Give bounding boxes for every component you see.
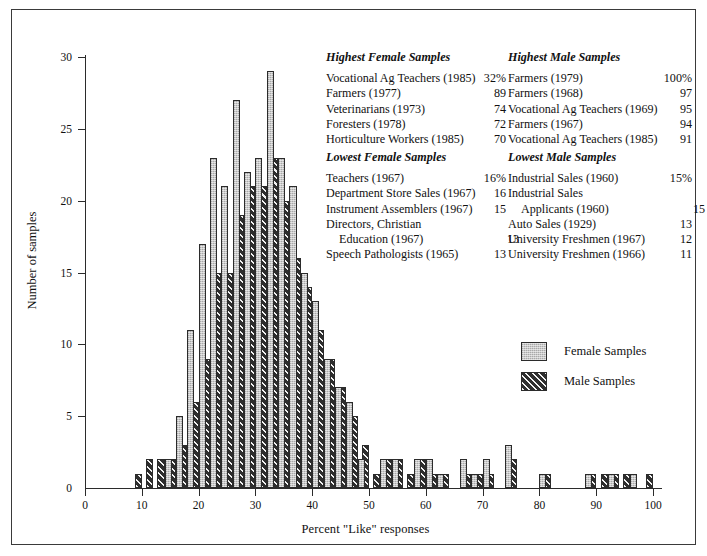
y-tick-label: 20 — [52, 195, 72, 207]
x-tick — [85, 489, 86, 496]
annotation-row: Industrial Sales — [508, 186, 705, 201]
annotation-row-value: 100% — [660, 71, 692, 86]
annotation-row: Directors, Christian — [326, 217, 519, 232]
annotation-row: Horticulture Workers (1985)70 — [326, 132, 506, 147]
annotation-title: Lowest Male Samples — [508, 150, 705, 165]
bar-female — [630, 474, 637, 488]
bar-female — [426, 459, 433, 488]
legend-swatch-female — [521, 342, 547, 361]
bar-female — [176, 416, 183, 488]
y-tick-label: 10 — [52, 338, 72, 350]
x-tick — [596, 489, 597, 496]
x-tick-label: 70 — [477, 499, 489, 511]
annotation-row: Veterinarians (1973)74 — [326, 102, 506, 117]
annotation-row-name: Industrial Sales — [508, 186, 660, 201]
x-tick-label: 40 — [306, 499, 318, 511]
x-tick-label: 60 — [420, 499, 432, 511]
figure-histogram: Percent "Like" responses Number of sampl… — [0, 0, 707, 556]
annotation-row-value: 16 — [478, 186, 506, 201]
bar-female — [608, 474, 615, 488]
x-tick — [199, 489, 200, 496]
bar-female — [437, 474, 444, 488]
annotation-row-name: Vocational Ag Teachers (1985) — [508, 132, 660, 147]
y-tick — [78, 129, 85, 130]
legend-swatch-male — [521, 372, 547, 391]
y-tick-label: 5 — [52, 410, 72, 422]
annotation-row-name: Directors, Christian — [326, 217, 478, 232]
annotation-row-value: 91 — [660, 132, 692, 147]
bar-female — [324, 359, 331, 488]
annotation-row: Farmers (1977)89 — [326, 86, 506, 101]
annotation-row-value: 89 — [478, 86, 506, 101]
bar-female — [380, 459, 387, 488]
y-tick — [78, 273, 85, 274]
bar-female — [539, 474, 546, 488]
bar-female — [505, 445, 512, 488]
annotation-row-value: 95 — [660, 102, 692, 117]
x-tick-label: 100 — [644, 499, 661, 511]
annotation-row-value: 74 — [478, 102, 506, 117]
y-axis-label: Number of samples — [25, 151, 40, 371]
annotation-row-value: 15 — [673, 202, 705, 217]
bar-female — [414, 459, 421, 488]
annotation-row-name: Farmers (1968) — [508, 86, 660, 101]
bar-male — [646, 474, 653, 488]
annotation-title: Highest Male Samples — [508, 50, 692, 65]
x-tick-label: 0 — [82, 499, 88, 511]
annotation-row-value: 72 — [478, 117, 506, 132]
x-tick-label: 50 — [363, 499, 375, 511]
annotation-rows: Industrial Sales (1960)15%Industrial Sal… — [508, 171, 705, 262]
annotation-row-name: Farmers (1979) — [508, 71, 660, 86]
x-tick — [426, 489, 427, 496]
bar-female — [278, 158, 285, 488]
bar-female — [244, 172, 251, 488]
annotation-row: Farmers (1967)94 — [508, 117, 692, 132]
annotation-row-value: 70 — [478, 132, 506, 147]
annotation-row-value — [478, 217, 506, 232]
legend-item: Male Samples — [521, 366, 646, 396]
x-tick-label: 80 — [534, 499, 546, 511]
x-tick-label: 10 — [136, 499, 148, 511]
annotation-highest-male: Highest Male Samples Farmers (1979)100%F… — [508, 50, 692, 147]
annotation-row-name: Speech Pathologists (1965) — [326, 247, 478, 262]
annotation-row: Vocational Ag Teachers (1985)32% — [326, 71, 506, 86]
annotation-row: Foresters (1978)72 — [326, 117, 506, 132]
bar-female — [289, 186, 296, 488]
bar-female — [187, 330, 194, 488]
bar-female — [301, 273, 308, 489]
y-tick — [78, 57, 85, 58]
legend-label: Female Samples — [564, 344, 646, 359]
annotation-row: Farmers (1968)97 — [508, 86, 692, 101]
legend-label: Male Samples — [564, 374, 635, 389]
annotation-rows: Farmers (1979)100%Farmers (1968)97Vocati… — [508, 71, 692, 147]
annotation-row-value: 97 — [660, 86, 692, 101]
bar-female — [312, 301, 319, 488]
bar-female — [335, 387, 342, 488]
annotation-row-name: University Freshmen (1966) — [508, 247, 660, 262]
annotation-row-name: Education (1967) — [326, 232, 491, 247]
annotation-row-name: Farmers (1967) — [508, 117, 660, 132]
bar-female — [460, 459, 467, 488]
annotation-row-value: 13 — [478, 247, 506, 262]
annotation-row-name: Veterinarians (1973) — [326, 102, 478, 117]
annotation-row: Vocational Ag Teachers (1985)91 — [508, 132, 692, 147]
x-axis-label: Percent "Like" responses — [12, 522, 707, 537]
bar-male — [601, 474, 608, 488]
annotation-row: University Freshmen (1966)11 — [508, 247, 705, 262]
annotation-row-value: 15 — [478, 202, 506, 217]
annotation-row-value: 32% — [478, 71, 506, 86]
x-tick-label: 90 — [590, 499, 602, 511]
chart-legend: Female SamplesMale Samples — [521, 336, 646, 396]
figure-frame: Percent "Like" responses Number of sampl… — [11, 9, 696, 545]
annotation-title: Highest Female Samples — [326, 50, 506, 65]
annotation-row: Speech Pathologists (1965)13 — [326, 247, 519, 262]
x-tick — [539, 489, 540, 496]
bar-female — [165, 459, 172, 488]
annotation-highest-female: Highest Female Samples Vocational Ag Tea… — [326, 50, 506, 147]
bar-female — [255, 158, 262, 488]
annotation-row: Department Store Sales (1967)16 — [326, 186, 519, 201]
x-tick-label: 20 — [193, 499, 205, 511]
legend-item: Female Samples — [521, 336, 646, 366]
annotation-row-name: Vocational Ag Teachers (1985) — [326, 71, 478, 86]
x-tick — [653, 489, 654, 496]
